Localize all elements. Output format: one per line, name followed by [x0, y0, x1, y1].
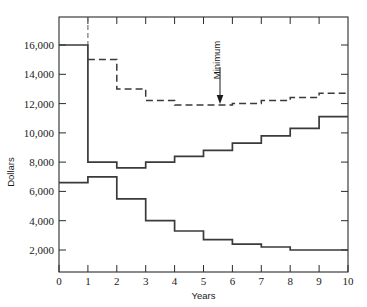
x-tick-labels: 0 1 2 3 4 5 6 7 8 9 10	[56, 275, 354, 287]
series-capital-recovery-cost	[59, 45, 348, 168]
x-axis-ticks-top	[88, 17, 319, 24]
y-tick-label: 10,000	[24, 127, 55, 139]
y-tick-label: 14,000	[24, 68, 55, 80]
x-tick-label: 3	[143, 275, 149, 287]
minimum-arrow-head	[217, 95, 224, 104]
series-operating-cost	[59, 177, 348, 250]
x-tick-label: 7	[259, 275, 265, 287]
chart-svg: 16,000 14,000 12,000 10,000 8,000 6,000 …	[0, 0, 367, 307]
x-tick-label: 9	[316, 275, 322, 287]
y-tick-label: 2,000	[29, 244, 54, 256]
x-tick-label: 6	[230, 275, 236, 287]
x-tick-label: 2	[114, 275, 120, 287]
y-tick-label: 12,000	[24, 98, 55, 110]
x-tick-label: 4	[172, 275, 178, 287]
y-tick-label: 8,000	[29, 156, 54, 168]
x-tick-label: 5	[201, 275, 207, 287]
y-axis-ticks-right	[341, 45, 348, 250]
x-tick-label: 8	[287, 275, 293, 287]
x-axis-ticks	[59, 265, 348, 272]
y-tick-label: 6,000	[29, 185, 54, 197]
y-axis-title: Dollars	[5, 157, 16, 187]
y-axis-ticks	[59, 45, 66, 250]
y-tick-label: 16,000	[24, 39, 55, 51]
minimum-annotation: Minimum	[211, 41, 223, 104]
y-tick-label: 4,000	[29, 215, 54, 227]
chart-figure: 16,000 14,000 12,000 10,000 8,000 6,000 …	[0, 0, 367, 307]
y-tick-labels: 16,000 14,000 12,000 10,000 8,000 6,000 …	[24, 39, 55, 256]
x-tick-label: 10	[343, 275, 355, 287]
x-tick-label: 0	[56, 275, 62, 287]
x-axis-title: Years	[192, 290, 216, 301]
x-tick-label: 1	[85, 275, 91, 287]
